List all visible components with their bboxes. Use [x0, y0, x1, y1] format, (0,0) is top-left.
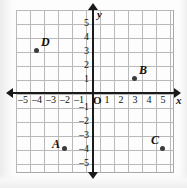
- y-tick-label: 1: [75, 74, 89, 84]
- data-point-label-c: C: [151, 134, 159, 146]
- coordinate-plane-figure: O x y –5–4–3–2–11234554321–1–2–3–4–5 ABC…: [0, 0, 187, 188]
- gridline-horizontal: [16, 80, 173, 81]
- gridline-horizontal: [16, 66, 173, 67]
- data-point-label-d: D: [41, 36, 50, 48]
- y-tick-label: 2: [75, 60, 89, 70]
- gridline-horizontal: [16, 108, 173, 109]
- gridline-vertical: [156, 10, 157, 172]
- y-tick-label: 3: [75, 46, 89, 56]
- y-axis-line: [92, 8, 94, 176]
- x-axis-label: x: [176, 95, 182, 106]
- gridline-vertical: [170, 10, 171, 172]
- gridline-horizontal: [16, 52, 173, 53]
- data-point-a: [62, 146, 67, 151]
- gridline-vertical: [114, 10, 115, 172]
- y-tick-label: 4: [75, 32, 89, 42]
- grid: [16, 10, 173, 172]
- gridline-horizontal: [16, 10, 173, 11]
- gridline-vertical: [30, 10, 31, 172]
- data-point-b: [132, 76, 137, 81]
- gridline-horizontal: [16, 38, 173, 39]
- data-point-label-a: A: [52, 138, 60, 150]
- y-tick-label: –1: [75, 102, 89, 112]
- gridline-vertical: [128, 10, 129, 172]
- gridline-horizontal: [16, 150, 173, 151]
- gridline-vertical: [142, 10, 143, 172]
- y-tick-label: –3: [75, 130, 89, 140]
- gridline-horizontal: [16, 164, 173, 165]
- data-point-c: [160, 146, 165, 151]
- data-point-d: [34, 48, 39, 53]
- x-axis-arrow-left-icon: [6, 88, 13, 98]
- gridline-vertical: [100, 10, 101, 172]
- y-tick-label: –2: [75, 116, 89, 126]
- gridline-vertical: [72, 10, 73, 172]
- y-tick-label: –4: [75, 144, 89, 154]
- y-tick-label: –5: [75, 158, 89, 168]
- gridline-horizontal: [16, 136, 173, 137]
- y-tick-label: 5: [75, 18, 89, 28]
- y-axis-label: y: [97, 9, 102, 20]
- gridline-vertical: [16, 10, 17, 172]
- y-axis-arrow-down-icon: [88, 172, 98, 179]
- data-point-label-b: B: [139, 64, 147, 76]
- gridline-horizontal: [16, 122, 173, 123]
- x-tick-label: 5: [155, 95, 171, 105]
- gridline-horizontal: [16, 24, 173, 25]
